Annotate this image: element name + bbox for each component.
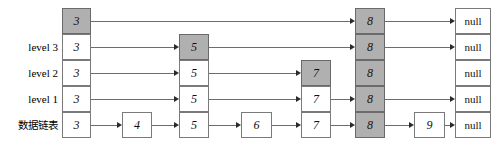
link-level-2-5-to-7 [209,73,296,74]
link-base-3-to-4 [91,125,117,126]
link-level-1-8-to-null [385,99,450,100]
node-3-level-1: 3 [62,86,91,112]
node-3-level-3: 3 [62,34,91,60]
row-label-data-list: 数据链表 [0,112,58,138]
node-8-level-1: 8 [355,86,385,112]
node-8-level-3: 8 [355,34,385,60]
row-label-level-2: level 2 [0,60,58,86]
link-base-6-to-7 [272,125,296,126]
node-8-base: 8 [355,112,385,138]
node-null-level-3: null [455,34,491,60]
link-top-8-to-null [385,21,450,22]
node-null-level-1: null [455,86,491,112]
node-7-level-2: 7 [301,60,331,86]
node-3-base: 3 [62,112,91,138]
node-8-level-2: 8 [355,60,385,86]
node-3-level-2: 3 [62,60,91,86]
node-3-top: 3 [62,8,91,34]
link-base-5-to-6 [209,125,236,126]
node-8-top: 8 [355,8,385,34]
link-base-7-to-8 [331,125,350,126]
node-5-level-3: 5 [179,34,209,60]
node-5-level-2: 5 [179,60,209,86]
node-5-base: 5 [179,112,209,138]
link-top-3-to-8 [91,21,350,22]
link-level-3-3-to-5 [91,47,174,48]
row-label-level-1: level 1 [0,86,58,112]
node-9-base: 9 [414,112,445,138]
link-level-1-5-to-7 [209,99,296,100]
node-null-top: null [455,8,491,34]
node-5-level-1: 5 [179,86,209,112]
link-base-4-to-5 [152,125,174,126]
node-7-base: 7 [301,112,331,138]
node-4-base: 4 [122,112,152,138]
link-level-3-8-to-null [385,47,450,48]
link-level-1-3-to-5 [91,99,174,100]
node-6-base: 6 [241,112,272,138]
skip-list-diagram: level 3level 2level 1数据链表38null358null35… [0,0,500,144]
link-level-3-5-to-8 [209,47,350,48]
link-base-8-to-9 [385,125,409,126]
node-7-level-1: 7 [301,86,331,112]
node-null-level-2: null [455,60,491,86]
node-null-base: null [455,112,491,138]
link-level-2-3-to-5 [91,73,174,74]
link-level-1-7-to-8 [331,99,350,100]
row-label-level-3: level 3 [0,34,58,60]
